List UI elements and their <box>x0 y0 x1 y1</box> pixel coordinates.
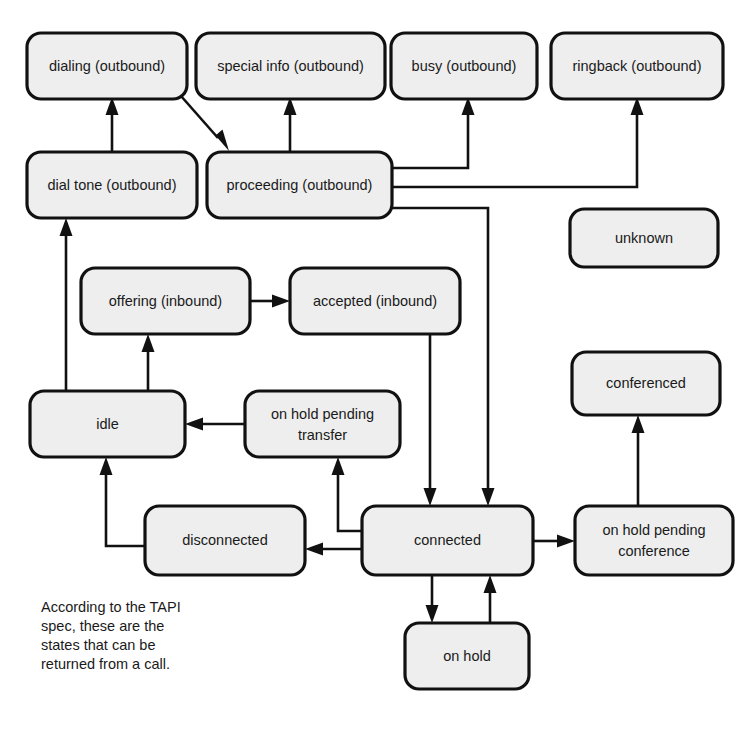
edge-proceeding-to-busy <box>392 97 475 168</box>
tapi-call-state-diagram: dialing (outbound) special info (outboun… <box>0 0 748 730</box>
state-node-conferenced[interactable]: conferenced <box>572 352 720 415</box>
state-node-connected-label: connected <box>414 532 481 548</box>
state-node-offering-label: offering (inbound) <box>109 293 222 309</box>
state-diagram-canvas: dialing (outbound) special info (outboun… <box>0 0 748 730</box>
state-node-idle[interactable]: idle <box>30 391 185 457</box>
state-node-idle-label: idle <box>96 416 119 432</box>
state-node-accepted[interactable]: accepted (inbound) <box>290 268 460 334</box>
edge-accepted-to-connected <box>424 334 437 506</box>
state-node-on-hold-pending-transfer-shape[interactable] <box>245 391 400 457</box>
edge-connected-to-on-hold-pending-transfer <box>332 457 363 531</box>
state-node-conferenced-label: conferenced <box>606 375 686 391</box>
state-node-on-hold-pending-conference[interactable]: on hold pending conference <box>575 506 733 575</box>
state-node-accepted-label: accepted (inbound) <box>313 293 437 309</box>
state-node-proceeding[interactable]: proceeding (outbound) <box>207 152 392 218</box>
diagram-caption-line-2: spec, these are the <box>41 618 164 634</box>
state-node-on-hold-pending-conference-label-line2: conference <box>618 543 690 559</box>
state-node-disconnected[interactable]: disconnected <box>145 506 305 575</box>
state-node-on-hold-pending-transfer[interactable]: on hold pending transfer <box>245 391 400 457</box>
state-node-ringback-label: ringback (outbound) <box>573 58 702 74</box>
state-node-on-hold[interactable]: on hold <box>405 623 529 689</box>
state-node-ringback[interactable]: ringback (outbound) <box>551 33 723 99</box>
edge-offering-to-accepted <box>250 295 290 308</box>
edge-connected-to-on-hold-pending-conference <box>533 535 575 548</box>
edge-dialing-to-proceeding <box>181 96 229 151</box>
edge-dial-tone-to-dialing <box>106 97 119 152</box>
state-node-busy[interactable]: busy (outbound) <box>391 33 537 99</box>
edge-disconnected-to-idle <box>100 457 146 546</box>
state-node-unknown[interactable]: unknown <box>570 209 718 267</box>
edge-idle-to-offering <box>142 334 155 391</box>
edge-connected-to-on-hold <box>426 575 439 623</box>
state-node-special-info-label: special info (outbound) <box>217 58 364 74</box>
state-node-proceeding-label: proceeding (outbound) <box>227 177 373 193</box>
state-node-on-hold-pending-transfer-label-line2: transfer <box>298 427 347 443</box>
edge-idle-to-dial-tone <box>60 218 73 391</box>
edge-on-hold-pending-conference-to-conferenced <box>632 415 645 506</box>
state-node-busy-label: busy (outbound) <box>412 58 517 74</box>
edge-proceeding-to-special-info <box>284 97 297 152</box>
state-node-dial-tone-label: dial tone (outbound) <box>48 177 177 193</box>
edge-connected-to-disconnected <box>305 543 362 556</box>
diagram-caption-line-3: states that can be <box>41 637 155 653</box>
state-node-special-info[interactable]: special info (outbound) <box>196 33 385 99</box>
edge-proceeding-to-ringback <box>392 97 644 187</box>
node-layer: dialing (outbound) special info (outboun… <box>27 33 733 689</box>
state-node-on-hold-label: on hold <box>443 648 491 664</box>
diagram-caption-line-4: returned from a call. <box>41 656 170 672</box>
state-node-connected[interactable]: connected <box>362 506 533 575</box>
edge-proceeding-to-connected <box>392 208 495 506</box>
state-node-offering[interactable]: offering (inbound) <box>81 268 250 334</box>
state-node-on-hold-pending-transfer-label-line1: on hold pending <box>271 406 374 422</box>
edge-on-hold-pending-transfer-to-idle <box>185 418 245 431</box>
state-node-dialing[interactable]: dialing (outbound) <box>27 33 187 99</box>
diagram-caption: According to the TAPI spec, these are th… <box>41 599 181 672</box>
state-node-on-hold-pending-conference-shape[interactable] <box>575 506 733 575</box>
edge-on-hold-to-connected <box>484 575 497 623</box>
state-node-unknown-label: unknown <box>615 230 673 246</box>
state-node-on-hold-pending-conference-label-line1: on hold pending <box>602 522 705 538</box>
state-node-disconnected-label: disconnected <box>182 532 267 548</box>
state-node-dial-tone[interactable]: dial tone (outbound) <box>27 152 197 218</box>
state-node-dialing-label: dialing (outbound) <box>49 58 165 74</box>
diagram-caption-line-1: According to the TAPI <box>41 599 181 615</box>
